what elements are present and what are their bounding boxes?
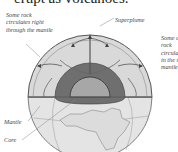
label-whole-mantle-circulation: Some rock circulates right through the m… xyxy=(6,11,54,33)
label-upper-mantle-circulation: Some of rock circulates in the upper man… xyxy=(161,34,178,70)
label-superplume: Superplume xyxy=(115,16,145,23)
label-core: Core xyxy=(4,136,16,143)
globe-surface xyxy=(28,97,152,152)
label-mantle: Mantle xyxy=(4,118,22,125)
cutaway-section xyxy=(28,34,152,104)
